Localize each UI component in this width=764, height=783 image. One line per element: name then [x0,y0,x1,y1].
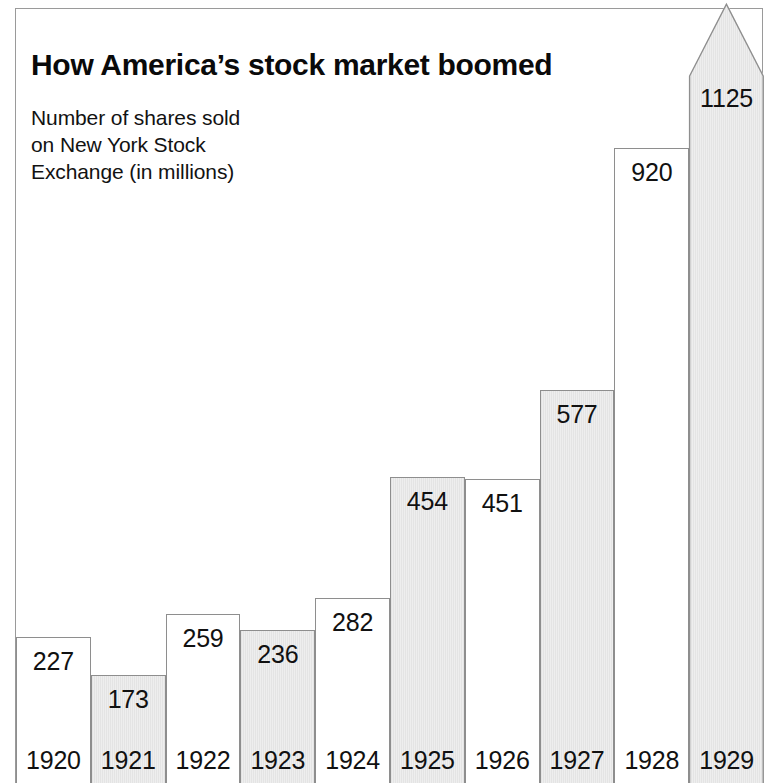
year-label-1926: 1926 [465,746,540,775]
value-label-1925: 454 [390,487,465,516]
bar-arrow-outline-1929 [689,3,764,783]
stock-market-bar-chart: 2271920173192125919222361923282192445419… [0,0,764,783]
year-label-1921: 1921 [91,746,166,775]
page-title: How America’s stock market boomed [31,48,552,82]
year-label-1925: 1925 [390,746,465,775]
value-label-1927: 577 [540,400,615,429]
year-label-1929: 1929 [689,746,764,775]
year-label-1924: 1924 [315,746,390,775]
chart-subtitle: Number of shares sold on New York Stock … [31,104,240,185]
bar-1926 [465,479,540,783]
subtitle-line-2: on New York Stock [31,131,240,158]
subtitle-line-1: Number of shares sold [31,104,240,131]
year-label-1922: 1922 [166,746,241,775]
bar-1929 [689,3,764,783]
year-label-1923: 1923 [240,746,315,775]
year-label-1927: 1927 [540,746,615,775]
bar-1927 [540,390,615,783]
value-label-1923: 236 [240,640,315,669]
value-label-1921: 173 [91,685,166,714]
value-label-1920: 227 [16,647,91,676]
value-label-1922: 259 [166,624,241,653]
value-label-1928: 920 [614,158,689,187]
value-label-1929: 1125 [689,84,764,113]
bar-1928 [614,148,689,783]
value-label-1926: 451 [465,489,540,518]
subtitle-line-3: Exchange (in millions) [31,158,240,185]
year-label-1920: 1920 [16,746,91,775]
year-label-1928: 1928 [614,746,689,775]
bar-1925 [390,477,465,783]
value-label-1924: 282 [315,608,390,637]
